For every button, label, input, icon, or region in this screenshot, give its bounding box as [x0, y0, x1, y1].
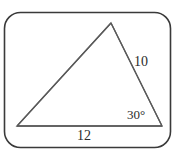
side-length-label-right: 10 — [134, 55, 148, 69]
diagram-canvas: 10 12 30° — [0, 0, 177, 156]
angle-measure-label: 30° — [127, 108, 145, 121]
side-length-label-bottom: 12 — [77, 129, 91, 143]
